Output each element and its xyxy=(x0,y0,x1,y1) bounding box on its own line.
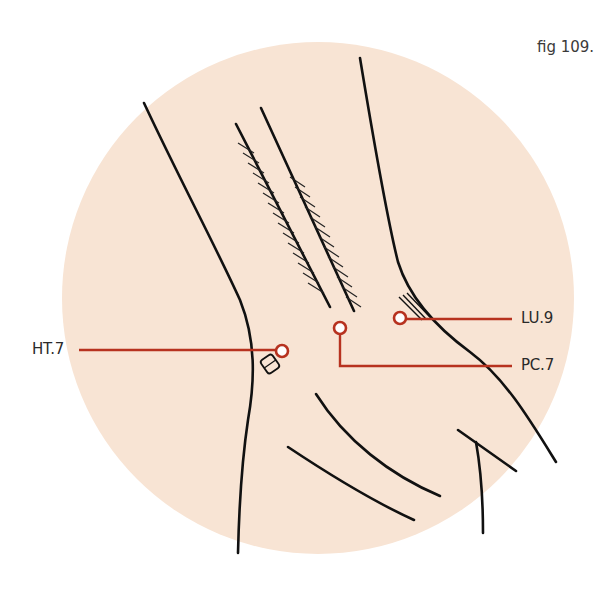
point-marker-ht7 xyxy=(276,345,288,357)
label-pc7: PC.7 xyxy=(521,356,554,374)
wrist-acupoint-diagram xyxy=(0,0,610,597)
label-lu9: LU.9 xyxy=(521,309,553,327)
label-ht7: HT.7 xyxy=(32,340,64,358)
figure-caption: fig 109. xyxy=(537,38,594,56)
skin-disc xyxy=(62,42,574,554)
point-marker-lu9 xyxy=(394,312,406,324)
point-marker-pc7 xyxy=(334,322,346,334)
